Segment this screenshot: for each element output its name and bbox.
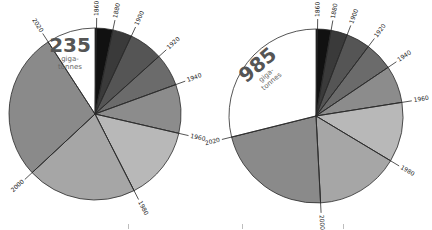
- year-label: 2020: [31, 17, 45, 34]
- year-label: 2000: [9, 178, 25, 194]
- tick-mark: [343, 224, 344, 229]
- year-label: 1920: [372, 22, 387, 39]
- pie-chart-comparison: 186018801900192019401960198020002020235g…: [0, 0, 432, 230]
- year-label: 1980: [137, 199, 150, 216]
- pie-chart-235-gigatonnes: 186018801900192019401960198020002020235g…: [9, 0, 207, 216]
- year-label: 1860: [92, 0, 99, 16]
- year-label: 1960: [413, 94, 429, 103]
- year-label: 1940: [396, 48, 413, 62]
- year-label: 1920: [165, 35, 181, 51]
- unit-label: tonnes: [58, 63, 82, 71]
- tick-mark: [242, 224, 243, 229]
- year-label: 1980: [399, 163, 416, 177]
- year-label: 2020: [204, 136, 221, 147]
- unit-label: giga-: [61, 55, 79, 63]
- total-value: 235: [49, 33, 91, 57]
- tick-mark: [128, 224, 129, 229]
- year-label: 1880: [329, 3, 339, 19]
- year-label: 1880: [111, 2, 121, 19]
- year-label: 2000: [319, 215, 327, 230]
- year-label: 1900: [132, 9, 145, 26]
- pie-chart-985-gigatonnes: 186018801900192019401960198020002020985g…: [204, 1, 429, 230]
- year-label: 1940: [186, 71, 203, 83]
- year-label: 1860: [313, 1, 320, 17]
- year-label: 1900: [347, 8, 359, 25]
